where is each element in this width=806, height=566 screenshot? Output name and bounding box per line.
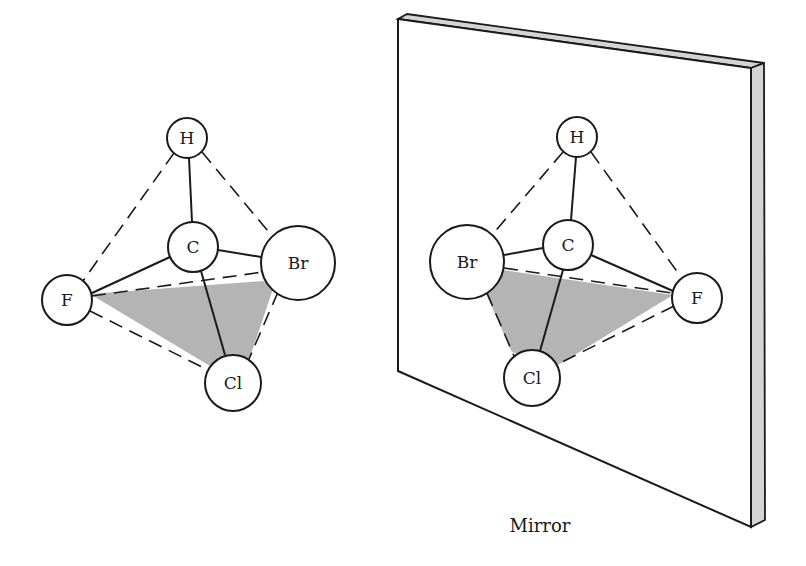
molecule-left: H C Br F Cl: [42, 118, 335, 411]
bond-c-f: [92, 257, 170, 293]
atom-c: C: [543, 220, 593, 270]
svg-text:C: C: [561, 235, 574, 255]
bond-c-h: [189, 158, 192, 222]
atom-cl: Cl: [205, 355, 261, 411]
atom-h: H: [167, 118, 207, 158]
atom-cl: Cl: [504, 350, 560, 406]
svg-text:Cl: Cl: [523, 368, 541, 388]
edge-h-br: [202, 152, 272, 236]
svg-text:H: H: [570, 127, 585, 147]
bond-c-br: [218, 250, 261, 257]
mirror-caption: Mirror: [510, 515, 571, 536]
atom-h: H: [557, 117, 597, 157]
svg-text:H: H: [180, 128, 195, 148]
svg-text:C: C: [186, 237, 199, 257]
svg-text:Br: Br: [288, 253, 309, 273]
mirror-side-edge: [751, 63, 765, 527]
atom-f: F: [42, 275, 92, 325]
atom-c: C: [168, 222, 218, 272]
atom-br: Br: [261, 226, 335, 300]
svg-text:F: F: [691, 288, 703, 308]
atom-br: Br: [430, 225, 504, 299]
svg-text:F: F: [61, 290, 73, 310]
atom-f: F: [672, 273, 722, 323]
chirality-mirror-diagram: H C Br F Cl: [0, 0, 806, 566]
svg-text:Br: Br: [457, 252, 478, 272]
svg-text:Cl: Cl: [224, 373, 242, 393]
